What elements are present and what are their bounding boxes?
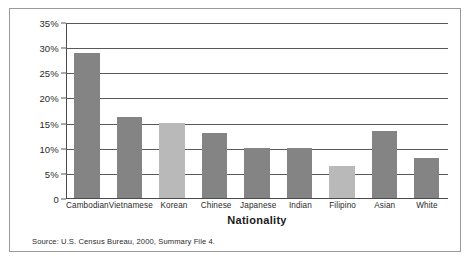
y-tick-label: 5% bbox=[45, 168, 59, 179]
x-axis-line bbox=[66, 198, 448, 199]
y-tick-label: 20% bbox=[39, 93, 59, 104]
bar-slot bbox=[321, 22, 363, 198]
chart-figure: 05%10%15%20%25%30%35% CambodianVietnames… bbox=[9, 8, 461, 252]
x-tick-label-white: White bbox=[406, 201, 448, 210]
plot-area: 05%10%15%20%25%30%35% bbox=[66, 23, 448, 199]
bar-series bbox=[66, 22, 448, 198]
y-tick-mark bbox=[61, 199, 66, 200]
bar-cambodian bbox=[74, 53, 99, 198]
bar-slot bbox=[193, 22, 235, 198]
x-axis-title: Nationality bbox=[66, 214, 448, 226]
bar-chinese bbox=[202, 133, 227, 198]
bar-asian bbox=[372, 131, 397, 198]
bar-slot bbox=[406, 22, 448, 198]
x-tick-label-chinese: Chinese bbox=[195, 201, 237, 210]
x-tick-label-indian: Indian bbox=[279, 201, 321, 210]
x-tick-label-vietnamese: Vietnamese bbox=[109, 201, 153, 210]
x-tick-labels: CambodianVietnameseKoreanChineseJapanese… bbox=[66, 201, 448, 210]
y-tick-label: 10% bbox=[39, 143, 59, 154]
source-note: Source: U.S. Census Bureau, 2000, Summar… bbox=[32, 237, 215, 246]
x-tick-label-korean: Korean bbox=[153, 201, 195, 210]
x-tick-label-asian: Asian bbox=[364, 201, 406, 210]
y-tick-label: 30% bbox=[39, 43, 59, 54]
bar-slot bbox=[278, 22, 320, 198]
bar-korean bbox=[159, 123, 184, 198]
bar-slot bbox=[66, 22, 108, 198]
y-tick-label: 25% bbox=[39, 68, 59, 79]
bar-filipino bbox=[329, 166, 354, 198]
bar-slot bbox=[363, 22, 405, 198]
bar-slot bbox=[151, 22, 193, 198]
y-tick-label: 35% bbox=[39, 18, 59, 29]
x-tick-label-cambodian: Cambodian bbox=[66, 201, 109, 210]
bar-indian bbox=[287, 148, 312, 198]
bar-vietnamese bbox=[117, 117, 142, 198]
y-tick-label: 0 bbox=[54, 194, 59, 205]
x-tick-label-filipino: Filipino bbox=[322, 201, 364, 210]
y-tick-label: 15% bbox=[39, 118, 59, 129]
bar-white bbox=[414, 158, 439, 198]
bar-slot bbox=[236, 22, 278, 198]
bar-japanese bbox=[244, 148, 269, 198]
bar-slot bbox=[108, 22, 150, 198]
x-tick-label-japanese: Japanese bbox=[237, 201, 279, 210]
